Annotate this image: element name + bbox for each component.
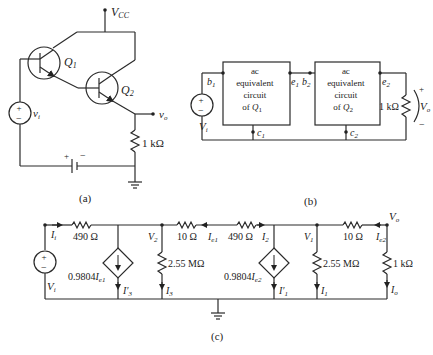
vcc-label: VCC bbox=[111, 5, 130, 20]
circuit-diagrams: VCC Q1 Q2 vo bbox=[0, 0, 433, 355]
node-c2: c2 bbox=[350, 127, 358, 140]
battery-plus: + bbox=[64, 151, 69, 161]
vo-minus: − bbox=[419, 119, 425, 130]
v1-label: V1 bbox=[304, 231, 314, 244]
ground-icon bbox=[211, 299, 225, 319]
figure-b: ac equivalent circuit of Q1 ac equivalen… bbox=[191, 62, 431, 208]
vi-label: vi bbox=[33, 107, 40, 121]
ie1-label: Ie1 bbox=[207, 231, 218, 244]
q2-label: Q2 bbox=[121, 83, 134, 98]
box-q2-text: ac equivalent circuit of Q2 bbox=[327, 66, 367, 114]
r2-label: 10 Ω bbox=[177, 231, 197, 242]
vo-label: vo bbox=[159, 108, 168, 122]
r1-label: 490 Ω bbox=[73, 231, 98, 242]
i3-label: I3 bbox=[165, 285, 173, 298]
node-c1: c1 bbox=[257, 127, 265, 140]
vo-label-c: Vo bbox=[389, 210, 400, 224]
node-b1: b1 bbox=[207, 76, 216, 89]
vi-label-b: Vi bbox=[199, 120, 208, 134]
source-vi-c: + − bbox=[34, 251, 56, 273]
rshunt2-label: 2.55 MΩ bbox=[323, 258, 359, 269]
r3-label: 490 Ω bbox=[228, 231, 253, 242]
cs2-label: 0.9804Ie2 bbox=[224, 271, 262, 284]
caption-c: (c) bbox=[211, 330, 224, 343]
i1-label: I1 bbox=[320, 285, 328, 298]
i1p-label: I′1 bbox=[278, 285, 288, 298]
plus-sign: + bbox=[199, 95, 204, 105]
figure-a: VCC Q1 Q2 vo bbox=[9, 5, 168, 205]
plus-sign: + bbox=[17, 103, 22, 113]
ii-label: Ii bbox=[50, 229, 56, 242]
caption-b: (b) bbox=[304, 195, 317, 208]
plus-sign: + bbox=[42, 252, 47, 262]
caption-a: (a) bbox=[79, 192, 92, 205]
box-q1-text: ac equivalent circuit of Q1 bbox=[236, 66, 276, 114]
node-b2: b2 bbox=[302, 76, 311, 89]
i2-label: I2 bbox=[261, 231, 269, 244]
rload-label: 1 kΩ bbox=[393, 258, 413, 269]
v2-label: V2 bbox=[148, 231, 158, 244]
ground-icon bbox=[128, 182, 142, 188]
vo-bracket bbox=[414, 90, 419, 122]
minus-sign: − bbox=[41, 262, 47, 273]
vo-plus: + bbox=[419, 84, 424, 94]
ra-label: 1 kΩ bbox=[142, 137, 164, 149]
q1-label: Q1 bbox=[64, 55, 77, 70]
r4-label: 10 Ω bbox=[343, 231, 363, 242]
vo-label-b: Vo bbox=[420, 100, 431, 114]
node-e1: e1 bbox=[291, 76, 299, 89]
battery-minus: − bbox=[80, 150, 86, 161]
source-vi: + − vi bbox=[9, 59, 40, 166]
figure-c: + − Vi Ii 490 Ω 0.9804Ie1 I′3 V2 2.55 MΩ… bbox=[34, 210, 413, 343]
rshunt1-label: 2.55 MΩ bbox=[168, 258, 204, 269]
minus-sign: − bbox=[198, 105, 204, 116]
transistor-q1: Q1 bbox=[20, 47, 77, 79]
cs1-label: 0.9804Ie1 bbox=[68, 271, 105, 284]
source-vi-b: + − Vi bbox=[191, 94, 213, 134]
minus-sign: − bbox=[16, 113, 22, 124]
ie2-label: Ie2 bbox=[375, 231, 386, 244]
i3p-label: I′3 bbox=[122, 285, 133, 298]
io-label: Io bbox=[390, 284, 398, 297]
load-label-b: 1 kΩ bbox=[379, 101, 399, 112]
node-e2: e2 bbox=[382, 76, 390, 89]
vi-label-c: Vi bbox=[47, 280, 56, 294]
